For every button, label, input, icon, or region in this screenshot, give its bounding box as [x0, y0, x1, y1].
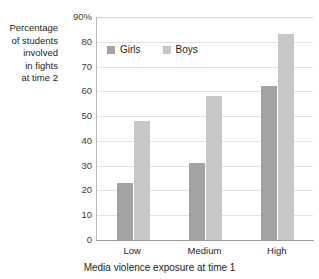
x-tick-label-medium: Medium [188, 245, 222, 257]
x-axis-title: Media violence exposure at time 1 [0, 262, 319, 274]
y-tick-label: 20 [56, 185, 92, 195]
x-tick-label-low: Low [123, 245, 140, 257]
legend-label-boys: Boys [176, 45, 198, 55]
y-tick-label: 0 [56, 235, 92, 245]
bar-boys-low[interactable] [134, 121, 150, 240]
bar-girls-medium[interactable] [189, 163, 205, 240]
bar-boys-medium[interactable] [206, 96, 222, 240]
y-axis-tick-labels: 90%80706050403020100 [56, 0, 92, 279]
legend: Girls Boys [107, 45, 198, 55]
y-axis-title: Percentage of students involved in fight… [0, 22, 58, 85]
y-tick-label: 30 [56, 161, 92, 171]
legend-item-boys[interactable]: Boys [163, 45, 198, 55]
x-axis-tick-labels: LowMediumHigh [96, 245, 313, 261]
x-tick-label-high: High [267, 245, 287, 257]
y-tick-label: 60 [56, 86, 92, 96]
y-tick-label: 40 [56, 136, 92, 146]
legend-item-girls[interactable]: Girls [107, 45, 141, 55]
bar-chart: Percentage of students involved in fight… [0, 0, 319, 279]
y-tick-label: 10 [56, 210, 92, 220]
y-tick-label: 50 [56, 111, 92, 121]
y-tick-label: 90% [56, 12, 92, 22]
bar-boys-high[interactable] [278, 34, 294, 240]
legend-label-girls: Girls [120, 45, 141, 55]
legend-swatch-icon-girls [107, 46, 115, 54]
x-axis-line [96, 240, 314, 241]
bar-girls-high[interactable] [261, 86, 277, 240]
y-tick-label: 70 [56, 62, 92, 72]
y-tick-label: 80 [56, 37, 92, 47]
bar-girls-low[interactable] [117, 183, 133, 240]
legend-swatch-icon-boys [163, 46, 171, 54]
